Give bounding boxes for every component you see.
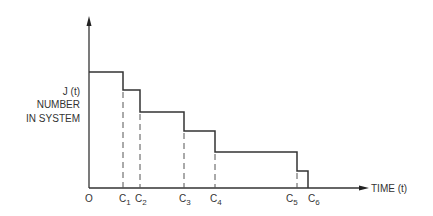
y-axis-arrow-icon <box>87 16 92 26</box>
step-function-line <box>89 72 308 188</box>
tick-c2: C2 <box>135 193 147 207</box>
x-axis-arrow-icon <box>359 186 369 191</box>
y-label-line2: NUMBER <box>37 99 80 110</box>
origin-label: O <box>85 193 93 204</box>
y-label-line3: IN SYSTEM <box>26 113 80 124</box>
tick-c4: C4 <box>210 193 222 207</box>
completion-dashes <box>123 92 297 188</box>
step-diagram: J (t) NUMBER IN SYSTEM O C1 C2 C3 C4 C5 … <box>0 0 433 216</box>
tick-c3: C3 <box>179 193 191 207</box>
tick-c6: C6 <box>308 193 320 207</box>
y-label-line1: J (t) <box>63 86 80 97</box>
tick-c5: C5 <box>286 193 298 207</box>
x-axis-label: TIME (t) <box>371 183 407 194</box>
tick-c1: C1 <box>119 193 131 207</box>
